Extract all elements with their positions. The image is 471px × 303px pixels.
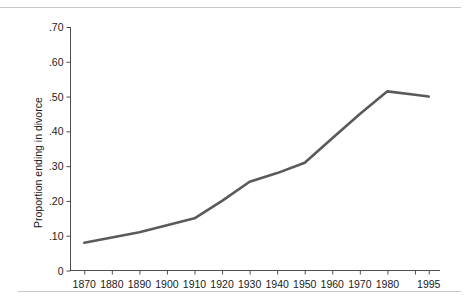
y-axis-tick-label: .10 bbox=[29, 230, 64, 241]
y-axis-ticks bbox=[67, 28, 71, 272]
y-axis-tick-label: .40 bbox=[29, 126, 64, 137]
x-axis-ticks bbox=[85, 271, 429, 275]
x-axis-tick-label: 1920 bbox=[210, 279, 233, 290]
y-axis-tick-label: .20 bbox=[29, 196, 64, 207]
x-axis-tick-label: 1980 bbox=[376, 279, 399, 290]
x-axis-tick-label: 1900 bbox=[155, 279, 178, 290]
x-axis-tick-label: 1890 bbox=[128, 279, 151, 290]
y-axis-tick-label: .70 bbox=[29, 22, 64, 33]
y-axis-tick-label: .30 bbox=[29, 161, 64, 172]
x-axis-tick-label: 1910 bbox=[183, 279, 206, 290]
y-axis-tick-label: .60 bbox=[29, 57, 64, 68]
data-line-proportion-ending-in-divorce bbox=[84, 91, 428, 242]
x-axis-tick-label: 1995 bbox=[417, 279, 440, 290]
x-axis-tick-label: 1960 bbox=[321, 279, 344, 290]
x-axis-tick-label: 1930 bbox=[238, 279, 261, 290]
x-axis-tick-label: 1950 bbox=[293, 279, 316, 290]
data-series-group bbox=[84, 91, 428, 242]
chart-figure: Proportion ending in divorce .70.60.50.4… bbox=[0, 0, 471, 303]
x-axis-tick-label: 1940 bbox=[265, 279, 288, 290]
x-axis-tick-label: 1880 bbox=[100, 279, 123, 290]
x-axis-tick-label: 1970 bbox=[348, 279, 371, 290]
x-axis-tick-label: 1870 bbox=[73, 279, 96, 290]
plot-area bbox=[0, 0, 471, 303]
y-axis-tick-label: 0 bbox=[29, 265, 64, 276]
y-axis-tick-label: .50 bbox=[29, 91, 64, 102]
